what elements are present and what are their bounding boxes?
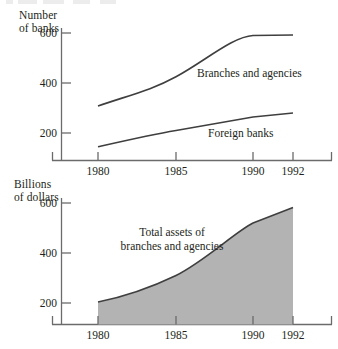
y-axis-title-line-2: of banks bbox=[19, 22, 59, 35]
y-tick-label-200: 200 bbox=[40, 297, 58, 309]
chart-panel-number-of-banks: Number of banks 600 400 200 1980 1985 19… bbox=[0, 0, 338, 180]
x-tick-label-1980: 1980 bbox=[87, 329, 110, 341]
y-axis-title-line-2: of dollars bbox=[14, 191, 59, 204]
series-label-branches-and-agencies: Branches and agencies bbox=[197, 67, 302, 80]
y-axis-title-line-1: Billions bbox=[14, 178, 59, 191]
y-axis-title-number-of-banks: Number of banks bbox=[19, 9, 59, 34]
chart-panel-total-assets: 600 400 200 1980 1985 1990 1992 Total as… bbox=[0, 170, 338, 349]
series-label-total-assets-line-2: branches and agencies bbox=[121, 240, 224, 253]
series-label-total-assets-line-1: Total assets of bbox=[139, 226, 205, 238]
x-tick-label-1985: 1985 bbox=[165, 329, 188, 341]
y-tick-label-400: 400 bbox=[40, 247, 58, 259]
x-tick-label-1990: 1990 bbox=[242, 329, 265, 341]
y-tick-label-200: 200 bbox=[40, 127, 58, 139]
figure-two-panel-chart: Number of banks 600 400 200 1980 1985 19… bbox=[0, 0, 338, 349]
series-label-foreign-banks: Foreign banks bbox=[208, 127, 274, 140]
y-axis-title-line-1: Number bbox=[19, 9, 59, 22]
y-tick-label-400: 400 bbox=[40, 77, 58, 89]
y-axis-title-billions-of-dollars: Billions of dollars bbox=[14, 178, 59, 203]
x-tick-label-1992: 1992 bbox=[282, 329, 305, 341]
